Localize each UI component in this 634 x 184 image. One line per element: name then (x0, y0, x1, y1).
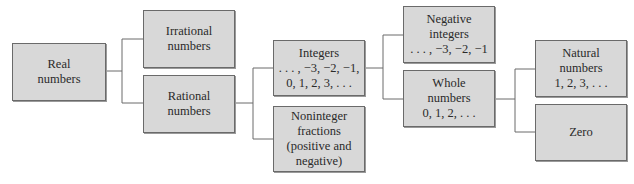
node-label: (positive and (287, 139, 352, 154)
node-natural-numbers: Natural numbers 1, 2, 3, . . . (535, 40, 627, 97)
connector-real-rational (122, 71, 143, 103)
node-label: . . . , −3, −2, −1 (410, 42, 487, 57)
node-label: 0, 1, 2, 3, . . . (286, 76, 352, 91)
node-label: Negative (426, 12, 471, 27)
node-label: Real (48, 57, 71, 72)
node-label: numbers (37, 72, 80, 87)
node-whole-numbers: Whole numbers 0, 1, 2, . . . (403, 70, 495, 127)
connector-whole-zero (515, 99, 535, 132)
node-label: negative) (296, 154, 343, 169)
node-noninteger-fractions: Noninteger fractions (positive and negat… (273, 106, 365, 172)
node-label: 0, 1, 2, . . . (422, 106, 475, 121)
node-label: Rational (168, 89, 210, 104)
node-zero: Zero (535, 104, 627, 161)
node-label: . . . , −3, −2, −1, (279, 61, 360, 76)
node-label: fractions (297, 124, 341, 139)
node-negative-integers: Negative integers . . . , −3, −2, −1 (403, 6, 495, 63)
node-label: 1, 2, 3, . . . (554, 76, 607, 91)
node-label: Irrational (166, 24, 213, 39)
node-label: Noninteger (291, 109, 347, 124)
connector-whole-natural (495, 69, 535, 99)
node-label: numbers (167, 104, 210, 119)
node-label: Natural (562, 46, 599, 61)
node-label: Zero (569, 125, 593, 140)
node-label: Integers (299, 46, 339, 61)
node-label: numbers (559, 61, 602, 76)
node-label: numbers (167, 39, 210, 54)
node-label: numbers (427, 91, 470, 106)
node-irrational-numbers: Irrational numbers (143, 10, 235, 68)
node-rational-numbers: Rational numbers (143, 75, 235, 133)
node-label: integers (429, 27, 469, 42)
node-integers: Integers . . . , −3, −2, −1, 0, 1, 2, 3,… (273, 40, 365, 96)
connector-rational-noninteger (253, 103, 273, 139)
connector-integers-whole (383, 68, 403, 99)
node-label: Whole (432, 76, 465, 91)
connector-rational-integers (235, 68, 273, 103)
connector-integers-negative (365, 35, 403, 68)
connector-real-irrational (106, 39, 143, 71)
node-real-numbers: Real numbers (12, 43, 106, 101)
